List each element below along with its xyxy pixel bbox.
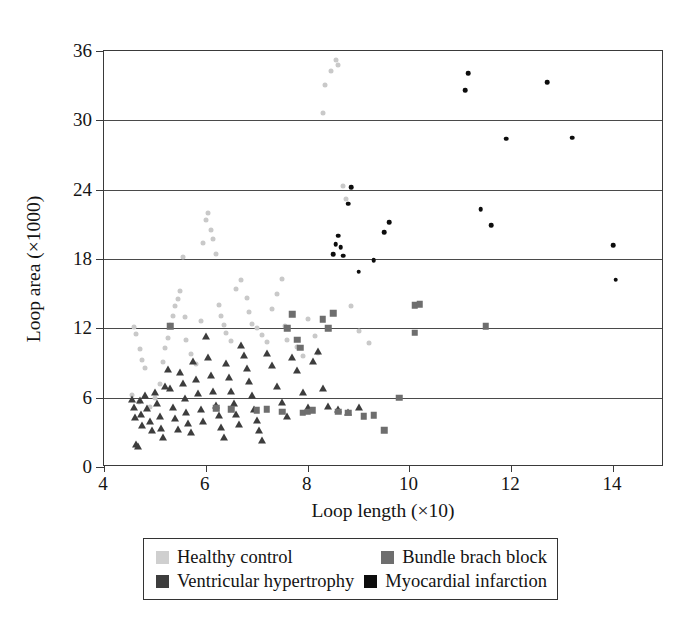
data-point xyxy=(201,240,206,245)
y-tick-label: 6 xyxy=(83,387,93,406)
y-tick-mark xyxy=(96,120,104,121)
data-point xyxy=(255,427,263,434)
data-point xyxy=(489,223,494,228)
y-axis-title: Loop area (×1000) xyxy=(23,154,45,384)
data-point xyxy=(171,415,179,422)
data-point xyxy=(163,345,168,350)
data-point xyxy=(416,301,423,308)
data-point xyxy=(164,365,172,372)
data-point xyxy=(182,408,190,415)
data-point xyxy=(219,313,224,318)
data-point xyxy=(180,254,185,259)
data-point xyxy=(309,407,316,414)
x-tick-mark xyxy=(511,465,512,472)
y-tick-label: 18 xyxy=(73,249,92,268)
data-point xyxy=(320,316,327,323)
data-point xyxy=(381,427,388,434)
data-point xyxy=(247,310,252,315)
data-point xyxy=(355,403,363,410)
data-point xyxy=(157,424,165,431)
data-point xyxy=(504,137,509,142)
data-point xyxy=(216,303,221,308)
data-point xyxy=(545,80,550,85)
data-point xyxy=(613,278,618,283)
data-point xyxy=(319,385,327,392)
x-axis-title: Loop length (×10) xyxy=(103,500,663,522)
y-tick-mark xyxy=(96,259,104,260)
data-point xyxy=(387,220,392,225)
y-tick-mark xyxy=(96,467,104,468)
data-point xyxy=(366,341,371,346)
data-point xyxy=(382,230,387,235)
data-point xyxy=(153,400,161,407)
x-tick-label: 14 xyxy=(603,474,622,493)
data-point xyxy=(240,351,248,358)
gridline xyxy=(104,190,662,191)
data-point xyxy=(221,322,226,327)
y-tick-mark xyxy=(96,190,104,191)
data-point xyxy=(336,62,341,67)
data-point xyxy=(254,326,259,331)
data-point xyxy=(360,413,367,420)
data-point xyxy=(206,210,211,215)
data-point xyxy=(320,111,325,116)
data-point xyxy=(179,379,187,386)
data-point xyxy=(141,392,149,399)
y-tick-mark xyxy=(96,51,104,52)
x-tick-label: 8 xyxy=(302,474,312,493)
legend-label-healthy-control: Healthy control xyxy=(177,548,293,567)
y-tick-label: 12 xyxy=(73,318,92,337)
data-point xyxy=(146,417,154,424)
data-point xyxy=(466,71,471,76)
y-tick-label: 36 xyxy=(73,41,92,60)
legend-label-ventricular-hypertrophy: Ventricular hypertrophy xyxy=(177,572,354,591)
gridline xyxy=(104,259,662,260)
scatter-plot-figure: Loop area (×1000) 061218243036 468101214… xyxy=(0,0,691,624)
data-point xyxy=(220,433,228,440)
data-point xyxy=(176,369,184,376)
data-point xyxy=(333,242,338,247)
data-point xyxy=(305,317,310,322)
data-point xyxy=(372,258,377,263)
legend-row: Ventricular hypertrophy Myocardial infar… xyxy=(156,569,547,593)
data-point xyxy=(330,310,337,317)
data-point xyxy=(328,68,333,73)
data-point xyxy=(169,403,177,410)
data-point xyxy=(478,207,483,212)
data-point xyxy=(275,291,280,296)
data-point xyxy=(348,304,353,309)
legend-swatch-ventricular-hypertrophy xyxy=(156,575,169,588)
data-point xyxy=(134,443,142,450)
data-point xyxy=(225,373,233,380)
data-point xyxy=(203,217,208,222)
data-point xyxy=(199,417,207,424)
data-point xyxy=(227,387,235,394)
data-point xyxy=(264,406,271,413)
data-point xyxy=(345,409,352,416)
x-tick-label: 10 xyxy=(399,474,418,493)
data-point xyxy=(159,433,167,440)
gridline xyxy=(104,328,662,329)
data-point xyxy=(167,323,174,330)
data-point xyxy=(204,354,212,361)
legend-box: Healthy control Bundle brach block Ventr… xyxy=(143,538,558,600)
data-point xyxy=(207,371,215,378)
legend-swatch-bundle-brach-block xyxy=(381,551,394,564)
data-point xyxy=(183,314,188,319)
data-point xyxy=(270,306,275,311)
data-point xyxy=(166,385,174,392)
data-point xyxy=(285,337,290,342)
data-point xyxy=(202,333,210,340)
data-point xyxy=(411,330,418,337)
data-point xyxy=(237,341,245,348)
data-point xyxy=(148,427,156,434)
data-point xyxy=(341,253,346,258)
data-point xyxy=(264,340,269,345)
data-point xyxy=(331,252,336,257)
data-point xyxy=(192,376,200,383)
x-tick-mark xyxy=(206,465,207,472)
data-point xyxy=(336,234,341,239)
x-tick-mark xyxy=(613,465,614,472)
data-point xyxy=(289,311,296,318)
data-point xyxy=(243,364,251,371)
